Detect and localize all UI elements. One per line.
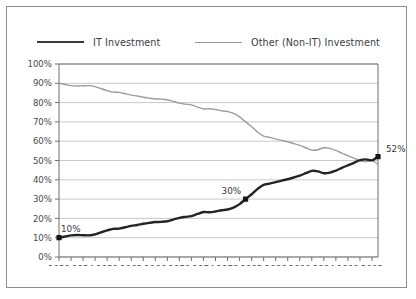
x-tick-labels: 1950195419581962196619701974197819821986… bbox=[48, 264, 383, 266]
legend-label-other-investment: Other (Non-IT) Investment bbox=[251, 37, 380, 48]
data-point-marker bbox=[375, 154, 380, 159]
y-tick-label: 90% bbox=[33, 78, 52, 88]
data-point-markers bbox=[56, 154, 380, 240]
x-tick-label: 1962 bbox=[120, 264, 142, 266]
chart-frame: IT Investment Other (Non-IT) Investment … bbox=[6, 6, 407, 288]
legend-label-it-investment: IT Investment bbox=[93, 37, 160, 48]
legend-swatch-it-investment bbox=[37, 41, 84, 43]
x-tick-label: 1970 bbox=[168, 264, 190, 266]
x-tick-label: 1982 bbox=[241, 264, 263, 266]
x-tick-label: 1986 bbox=[265, 264, 287, 266]
y-tick-label: 20% bbox=[33, 214, 52, 224]
series-other-investment bbox=[59, 83, 378, 164]
x-tick-label: 1958 bbox=[96, 264, 118, 266]
legend-item-it-investment: IT Investment bbox=[37, 33, 160, 51]
data-point-marker bbox=[243, 197, 248, 202]
y-tick-label: 50% bbox=[33, 156, 52, 166]
y-tick-label: 30% bbox=[33, 194, 52, 204]
chart-legend: IT Investment Other (Non-IT) Investment bbox=[7, 33, 408, 51]
data-point-label: 10% bbox=[61, 224, 81, 234]
series-it-investment bbox=[59, 157, 378, 238]
legend-item-other-investment: Other (Non-IT) Investment bbox=[195, 33, 380, 51]
x-tick-label: 1998 bbox=[337, 264, 359, 266]
plot-area-wrapper: 0%10%20%30%40%50%60%70%80%90%100% 195019… bbox=[7, 51, 408, 266]
legend-swatch-other-investment bbox=[195, 42, 242, 43]
gridlines bbox=[59, 64, 378, 257]
x-tick-label: 1974 bbox=[193, 264, 215, 266]
x-tick-label: 1990 bbox=[289, 264, 311, 266]
series-line bbox=[59, 83, 378, 164]
x-tick-label: 1954 bbox=[72, 264, 94, 266]
y-tick-label: 10% bbox=[33, 233, 52, 243]
y-tick-label: 0% bbox=[38, 252, 52, 262]
x-axis bbox=[59, 257, 378, 261]
y-tick-label: 80% bbox=[33, 98, 52, 108]
data-point-labels: 10%30%52% bbox=[61, 144, 406, 234]
y-tick-label: 40% bbox=[33, 175, 52, 185]
data-point-marker bbox=[56, 235, 61, 240]
x-tick-label: 1950 bbox=[48, 264, 70, 266]
x-tick-label: 1966 bbox=[144, 264, 166, 266]
x-tick-label: 2002 bbox=[361, 264, 383, 266]
y-tick-label: 60% bbox=[33, 136, 52, 146]
y-tick-label: 70% bbox=[33, 117, 52, 127]
data-point-label: 52% bbox=[386, 144, 406, 154]
y-tick-labels: 0%10%20%30%40%50%60%70%80%90%100% bbox=[27, 59, 52, 262]
x-tick-label: 1994 bbox=[313, 264, 335, 266]
line-chart: 0%10%20%30%40%50%60%70%80%90%100% 195019… bbox=[7, 51, 408, 266]
x-tick-label: 1978 bbox=[217, 264, 239, 266]
data-point-label: 30% bbox=[222, 186, 242, 196]
series-line bbox=[59, 157, 378, 238]
y-tick-label: 100% bbox=[27, 59, 52, 69]
